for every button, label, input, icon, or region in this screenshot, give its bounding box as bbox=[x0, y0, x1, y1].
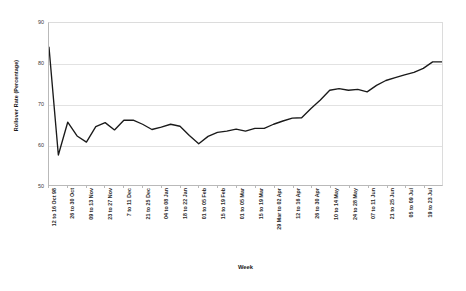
x-tick-label: 19 to 23 Jul bbox=[427, 188, 433, 217]
plot-area bbox=[48, 22, 443, 186]
x-tick-mark bbox=[274, 185, 275, 188]
x-tick-label: 12 to 16 Apr bbox=[295, 188, 301, 219]
x-tick-label: 21 to 25 Jun bbox=[389, 188, 395, 219]
x-tick-mark bbox=[123, 185, 124, 188]
x-tick-mark bbox=[387, 185, 388, 188]
x-tick-mark bbox=[67, 185, 68, 188]
x-tick-label: 18 to 22 Jan bbox=[182, 188, 188, 219]
x-tick-mark bbox=[48, 185, 49, 188]
x-tick-mark bbox=[104, 185, 105, 188]
x-tick-label: 01 to 05 Feb bbox=[201, 188, 207, 219]
x-tick-mark bbox=[142, 185, 143, 188]
x-tick-label: 26 to 30 Oct bbox=[69, 188, 75, 219]
x-tick-mark bbox=[180, 185, 181, 188]
x-tick-label: 7 to 11 Dec bbox=[126, 188, 132, 216]
x-tick-label: 05 to 09 Jul bbox=[408, 188, 414, 217]
x-tick-mark bbox=[330, 185, 331, 188]
series-line-rollover-rate bbox=[49, 23, 442, 185]
x-tick-label: 07 to 11 Jun bbox=[370, 188, 376, 219]
x-tick-label: 04 to 08 Jan bbox=[163, 188, 169, 219]
x-tick-mark bbox=[293, 185, 294, 188]
x-tick-label: 26 to 30 Apr bbox=[314, 188, 320, 219]
x-tick-mark bbox=[424, 185, 425, 188]
x-tick-mark bbox=[405, 185, 406, 188]
x-tick-label: 21 to 25 Dec bbox=[145, 188, 151, 220]
y-tick-label: 50 bbox=[28, 183, 44, 189]
y-tick-label: 90 bbox=[28, 19, 44, 25]
y-tick-label: 80 bbox=[28, 60, 44, 66]
x-tick-mark bbox=[255, 185, 256, 188]
x-tick-label: 15 to 19 Mar bbox=[258, 188, 264, 219]
x-tick-label: 01 to 05 Mar bbox=[239, 188, 245, 219]
x-tick-mark bbox=[161, 185, 162, 188]
rollover-rate-line-chart: Rollover Rate (Percentage) 9080706050 12… bbox=[0, 0, 466, 291]
x-tick-mark bbox=[311, 185, 312, 188]
x-tick-label-group: 12 to 16 Oct 9826 to 30 Oct09 to 13 Nov2… bbox=[48, 188, 443, 256]
x-tick-mark bbox=[198, 185, 199, 188]
y-axis-title-text: Rollover Rate (Percentage) bbox=[14, 59, 21, 131]
x-axis-title: Week bbox=[48, 264, 443, 270]
x-tick-label: 15 to 19 Feb bbox=[220, 188, 226, 219]
x-tick-mark bbox=[86, 185, 87, 188]
x-tick-label: 23 to 27 Nov bbox=[107, 188, 113, 220]
x-tick-mark bbox=[368, 185, 369, 188]
y-tick-label: 60 bbox=[28, 142, 44, 148]
x-tick-label: 12 to 16 Oct 98 bbox=[51, 188, 57, 226]
x-tick-label: 29 Mar to 02 Apr bbox=[276, 188, 282, 230]
x-tick-label: 10 to 14 May bbox=[333, 188, 339, 220]
x-tick-label: 09 to 13 Nov bbox=[88, 188, 94, 220]
x-tick-label: 24 to 28 May bbox=[352, 188, 358, 220]
y-tick-label: 70 bbox=[28, 101, 44, 107]
x-tick-mark bbox=[217, 185, 218, 188]
x-tick-mark bbox=[349, 185, 350, 188]
x-tick-mark bbox=[236, 185, 237, 188]
y-axis-title: Rollover Rate (Percentage) bbox=[0, 0, 34, 190]
